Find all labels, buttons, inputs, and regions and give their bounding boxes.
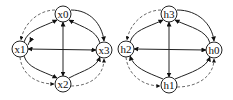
node-h2: h2	[118, 41, 134, 57]
graph-h: h3 h2 h0 h1	[118, 6, 222, 93]
edge-x0-x1-head	[28, 40, 31, 45]
edge-h1-h0-dashed	[177, 59, 214, 87]
node-x1: x1	[12, 41, 28, 57]
node-h1: h1	[161, 77, 177, 93]
edge-x1-x2-dashed	[20, 57, 54, 84]
edge-h1-h0-solid	[175, 57, 210, 79]
node-label: h3	[164, 8, 176, 20]
node-x2: x2	[55, 76, 71, 92]
edge-h3-h0-outer	[177, 10, 214, 41]
node-h0: h0	[206, 42, 222, 58]
edge-h0-h3	[175, 20, 210, 43]
diagram-canvas: x0 x1 x3 x2 h3 h2	[0, 0, 233, 100]
edge-x2-x3-solid	[69, 57, 100, 78]
edge-h3-h2-dashed	[127, 10, 161, 40]
edge-x0-x1-dashed	[21, 10, 55, 40]
edge-h1-h2-solid	[130, 56, 163, 79]
edge-x1-x2-solid	[24, 56, 57, 78]
node-label: h0	[209, 44, 221, 56]
edge-h2-h0	[134, 49, 206, 50]
edge-h2-h1-dashed	[126, 57, 160, 86]
node-h3: h3	[161, 6, 177, 22]
node-label: h1	[164, 79, 175, 91]
edge-x1-x3	[28, 49, 96, 50]
node-label: x3	[99, 44, 111, 56]
graph-x: x0 x1 x3 x2	[12, 6, 112, 92]
node-label: x2	[58, 78, 69, 90]
node-label: h2	[121, 43, 132, 55]
node-x3: x3	[96, 42, 112, 58]
node-label: x0	[58, 8, 70, 20]
edge-x0-x3-outer	[71, 10, 104, 41]
node-x0: x0	[55, 6, 71, 22]
edge-x3-x0	[69, 20, 100, 43]
edge-x2-x3-dashed	[71, 59, 104, 86]
node-label: x1	[15, 43, 26, 55]
